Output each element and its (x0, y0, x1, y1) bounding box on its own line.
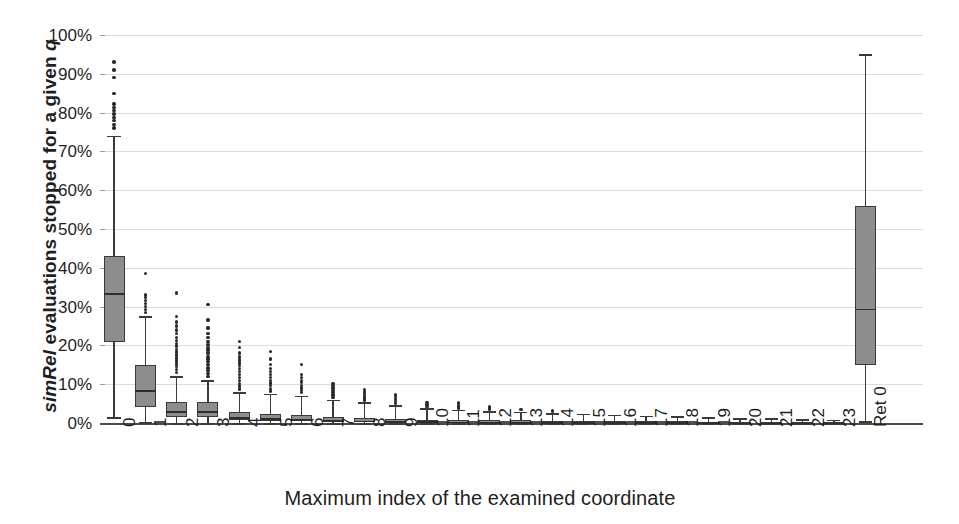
x-tick-label: 19 (716, 408, 733, 427)
x-tick-label: 14 (559, 408, 576, 427)
y-tick-label: 80% (2, 104, 92, 124)
x-axis-ticks: 01234567891011121314151617181920212223Re… (100, 0, 923, 524)
x-tick-label: 4 (246, 418, 263, 427)
x-tick-label: 17 (653, 408, 670, 427)
x-tick-label: Ret 0 (872, 386, 889, 427)
x-tick-label: 3 (215, 418, 232, 427)
x-tick-label: 0 (121, 418, 138, 427)
x-tick-label: 21 (778, 408, 795, 427)
y-tick-label: 10% (2, 375, 92, 395)
x-tick-label: 1 (152, 418, 169, 427)
x-tick-label: 5 (278, 418, 295, 427)
y-tick-label: 40% (2, 259, 92, 279)
x-tick-label: 16 (622, 408, 639, 427)
x-tick-label: 22 (810, 408, 827, 427)
y-tick-label: 20% (2, 336, 92, 356)
y-tick-label: 30% (2, 298, 92, 318)
boxplot-chart: simRel evaluations stopped for a given q… (0, 0, 959, 524)
y-tick-label: 70% (2, 142, 92, 162)
y-axis-ticks: 0%10%20%30%40%50%60%70%80%90%100% (0, 35, 96, 423)
x-tick-label: 23 (841, 408, 858, 427)
x-tick-label: 12 (497, 408, 514, 427)
x-tick-label: 11 (465, 409, 482, 427)
x-tick-label: 13 (528, 408, 545, 427)
y-tick-label: 100% (2, 26, 92, 46)
y-tick-label: 0% (2, 414, 92, 434)
y-tick-label: 60% (2, 181, 92, 201)
x-tick-label: 15 (591, 408, 608, 427)
x-tick-label: 9 (403, 418, 420, 427)
x-tick-label: 7 (340, 418, 357, 427)
x-tick-label: 8 (371, 418, 388, 427)
x-tick-label: 10 (434, 408, 451, 427)
x-tick-label: 18 (684, 408, 701, 427)
y-tick-label: 50% (2, 220, 92, 240)
x-tick-label: 6 (309, 418, 326, 427)
x-tick-label: 2 (184, 418, 201, 427)
x-tick-label: 20 (747, 408, 764, 427)
y-tick-label: 90% (2, 65, 92, 85)
x-axis-label: Maximum index of the examined coordinate (100, 487, 860, 510)
